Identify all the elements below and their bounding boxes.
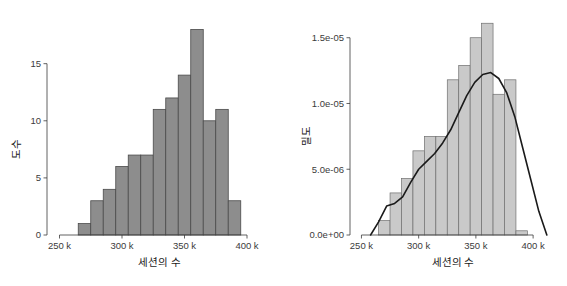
histogram-bar bbox=[436, 136, 447, 235]
x-tick-label: 350 k bbox=[464, 240, 487, 251]
chart-figure: 051015250 k300 k350 k400 k세션의 수도수 세션의 수 … bbox=[0, 0, 567, 286]
x-tick-label: 300 k bbox=[407, 240, 430, 251]
right-density-panel: 0.0e+005.0e-061.0e-051.5e-05250 k300 k35… bbox=[284, 0, 567, 286]
y-tick-label: 15 bbox=[30, 58, 41, 69]
histogram-bar bbox=[153, 109, 166, 235]
left-plot-svg: 051015250 k300 k350 k400 k세션의 수도수 bbox=[0, 0, 283, 286]
x-tick-label: 250 k bbox=[350, 240, 373, 251]
histogram-bar bbox=[516, 231, 527, 235]
histogram-bar bbox=[191, 29, 204, 235]
histogram-bar bbox=[116, 166, 129, 235]
y-tick-label: 1.0e-05 bbox=[312, 98, 344, 109]
histogram-bar bbox=[459, 65, 470, 235]
histogram-bar bbox=[424, 136, 435, 235]
histogram-bar bbox=[91, 201, 104, 235]
histogram-bar bbox=[203, 121, 216, 235]
histogram-bar bbox=[128, 155, 141, 235]
left-histogram-panel: 051015250 k300 k350 k400 k세션의 수도수 세션의 수 … bbox=[0, 0, 283, 286]
x-tick-label: 400 k bbox=[235, 240, 258, 251]
x-tick-label: 400 k bbox=[521, 240, 544, 251]
histogram-bar bbox=[216, 109, 229, 235]
histogram-bar bbox=[178, 75, 191, 235]
histogram-bar bbox=[166, 98, 179, 235]
histogram-bar bbox=[447, 80, 458, 235]
right-bars-group bbox=[379, 23, 528, 235]
x-tick-label: 250 k bbox=[48, 240, 71, 251]
histogram-bar bbox=[103, 189, 116, 235]
histogram-bar bbox=[413, 151, 424, 235]
y-tick-label: 0 bbox=[36, 229, 41, 240]
x-tick-label: 350 k bbox=[173, 240, 196, 251]
y-tick-label: 10 bbox=[30, 115, 41, 126]
y-tick-label: 1.5e-05 bbox=[312, 32, 344, 43]
y-tick-label: 5.0e-06 bbox=[312, 164, 344, 175]
y-tick-label: 0.0e+00 bbox=[309, 229, 344, 240]
histogram-bar bbox=[482, 23, 493, 235]
histogram-bar bbox=[379, 221, 390, 235]
histogram-bar bbox=[78, 224, 91, 235]
histogram-bar bbox=[228, 201, 241, 235]
x-tick-label: 300 k bbox=[110, 240, 133, 251]
histogram-bar bbox=[470, 38, 481, 235]
histogram-bar bbox=[141, 155, 154, 235]
x-axis-title: 세션의 수 bbox=[138, 256, 181, 268]
x-axis-title: 세션의 수 bbox=[432, 256, 475, 268]
histogram-bar bbox=[402, 178, 413, 235]
y-axis-title: 도수 bbox=[10, 139, 22, 159]
histogram-bar bbox=[493, 94, 504, 235]
y-axis-title: 밀도 bbox=[300, 126, 312, 146]
left-bars-group bbox=[78, 29, 241, 235]
right-plot-svg: 0.0e+005.0e-061.0e-051.5e-05250 k300 k35… bbox=[284, 0, 567, 286]
y-tick-label: 5 bbox=[36, 172, 41, 183]
